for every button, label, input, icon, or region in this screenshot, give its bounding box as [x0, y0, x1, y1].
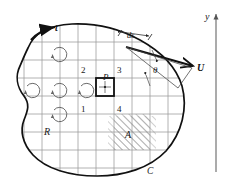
- velocity-vector-label: U: [197, 62, 205, 73]
- angle-theta-label: θ: [153, 65, 158, 75]
- arc-length-label: ds: [127, 30, 135, 40]
- area-a-label: A: [124, 129, 132, 140]
- hatched-area-a-overhang: [108, 116, 156, 150]
- point-p-marker: [104, 86, 106, 88]
- corner-label-1: 1: [81, 104, 86, 114]
- curve-c-label: C: [147, 166, 154, 176]
- point-p-label: P: [102, 72, 109, 82]
- corner-label-4: 4: [117, 104, 122, 114]
- region-grid: [14, 18, 196, 180]
- corner-label-2: 2: [81, 65, 86, 75]
- axis-y-label: y: [204, 11, 210, 22]
- figure-container: t ds θ U P R A C y 2 3 1 4: [0, 0, 239, 181]
- tangent-vector-label: t: [55, 23, 58, 33]
- corner-label-3: 3: [117, 65, 122, 75]
- diagram-canvas: t ds θ U P R A C y 2 3 1 4: [0, 0, 239, 181]
- region-r-label: R: [43, 126, 50, 137]
